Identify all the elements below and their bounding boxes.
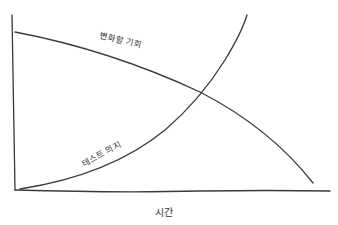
chart-canvas: [0, 0, 338, 225]
series-change-opportunity-line: [15, 32, 313, 183]
x-axis-label: 시간: [155, 204, 173, 219]
x-axis: [15, 190, 330, 192]
y-axis: [12, 15, 15, 190]
